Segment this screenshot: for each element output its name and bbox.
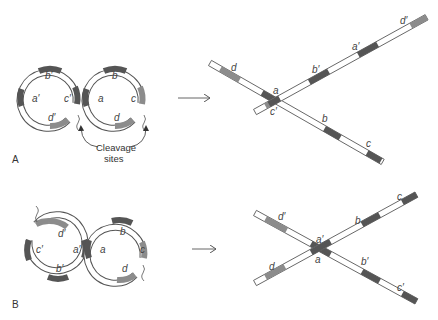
panel-b: d′ c′ a′ b′ b a c d	[12, 191, 418, 310]
strand-label-c: c	[397, 191, 402, 202]
panel-a-strand-2	[254, 15, 428, 115]
strand-label-a: a	[315, 254, 321, 265]
label-b: b	[112, 70, 118, 81]
label-b-prime: b′	[56, 263, 65, 274]
strand-label-b: b	[355, 215, 361, 226]
panel-label-a: A	[12, 154, 19, 165]
label-c: c	[140, 244, 145, 255]
label-a-prime: a′	[32, 93, 41, 104]
strand-label-a-prime: a′	[352, 41, 361, 52]
panel-label-b: B	[12, 299, 19, 310]
strand-label-d-prime: d′	[278, 211, 287, 222]
label-d: d	[114, 112, 120, 123]
label-a: a	[100, 244, 106, 255]
panel-a: b′ a′ c′ d′ b a c d Cleavage sites	[12, 15, 428, 165]
strand-label-c: c	[366, 138, 371, 149]
panel-b-strand-2	[254, 192, 418, 286]
recombination-diagram: b′ a′ c′ d′ b a c d Cleavage sites	[0, 0, 438, 320]
label-c-prime: c′	[36, 244, 44, 255]
cleavage-site-squiggle	[142, 265, 145, 281]
panel-b-right-circle	[87, 220, 144, 283]
label-a: a	[98, 93, 104, 104]
strand-label-a-prime: a′	[316, 234, 325, 245]
strand-label-a: a	[273, 85, 279, 96]
cleavage-site-squiggle	[77, 115, 80, 131]
label-d: d	[122, 263, 128, 274]
label-c: c	[131, 93, 136, 104]
strand-label-b-prime: b′	[361, 256, 370, 267]
label-d-prime: d′	[58, 228, 67, 239]
label-d-prime: d′	[48, 112, 57, 123]
strand-label-b: b	[322, 113, 328, 124]
panel-b-strand-1	[254, 210, 418, 304]
label-a-prime: a′	[73, 244, 82, 255]
annotation-sites: sites	[104, 153, 124, 164]
annotation-cleavage: Cleavage	[96, 142, 136, 153]
strand-label-d: d	[231, 62, 237, 73]
strand-label-c-prime: c′	[270, 106, 278, 117]
cleavage-site-squiggle	[143, 115, 146, 131]
strand-label-d: d	[269, 261, 275, 272]
strand-label-b-prime: b′	[312, 64, 321, 75]
label-b-prime: b′	[45, 70, 54, 81]
label-c-prime: c′	[64, 93, 72, 104]
label-b: b	[120, 226, 126, 237]
panel-a-strand-1	[209, 60, 385, 164]
strand-label-c-prime: c′	[397, 282, 405, 293]
strand-label-d-prime: d′	[400, 15, 409, 26]
